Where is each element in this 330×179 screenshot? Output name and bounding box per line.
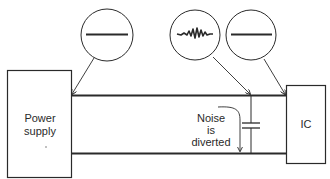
noise-annotation: Noise is diverted — [188, 112, 234, 148]
diagram-canvas — [0, 0, 330, 179]
power-supply-label: Power supply — [10, 112, 70, 137]
power-supply-label-line2: supply — [10, 125, 70, 137]
noise-annotation-line3: diverted — [188, 136, 234, 148]
ic-label: IC — [286, 118, 326, 130]
noise-annotation-line1: Noise — [188, 112, 234, 124]
capacitor-icon — [242, 96, 260, 154]
power-supply-label-line1: Power — [10, 112, 70, 124]
callout-leader-line — [264, 59, 285, 94]
callout-leader-line — [72, 58, 94, 94]
callout-supply-output — [72, 9, 133, 94]
decoupling-diagram: Power supply IC Noise is diverted — [0, 0, 330, 179]
stray-dot — [45, 146, 46, 147]
callout-leader-line — [213, 57, 250, 94]
callout-ic-input — [226, 10, 285, 94]
noise-annotation-line2: is — [188, 124, 234, 136]
